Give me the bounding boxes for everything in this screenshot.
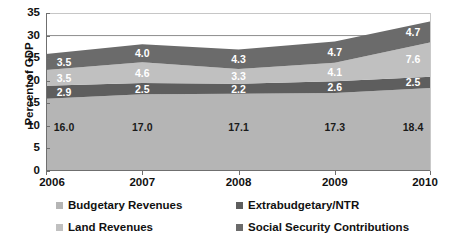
y-tick-mark-20	[46, 81, 50, 82]
legend-label-3: Social Security Contributions	[248, 221, 409, 233]
y-tick-label-20: 20	[18, 75, 40, 87]
plot-area: 16.017.017.117.318.42.92.52.22.62.53.54.…	[46, 13, 431, 171]
y-tick-label-35: 35	[18, 7, 40, 19]
y-tick-mark-25	[46, 58, 50, 59]
data-label-s1-2008: 2.2	[231, 84, 246, 95]
y-tick-mark-15	[46, 103, 50, 104]
x-tick-mark-2007	[142, 171, 143, 175]
data-label-s2-2007: 4.6	[135, 67, 150, 78]
data-label-s1-2010: 2.5	[406, 77, 421, 88]
legend-item-3[interactable]: Social Security Contributions	[236, 221, 409, 233]
x-tick-label-2008: 2008	[226, 176, 252, 188]
data-label-s3-2006: 3.5	[57, 57, 72, 68]
data-label-s2-2008: 3.3	[231, 71, 246, 82]
legend-label-0: Budgetary Revenues	[68, 199, 182, 211]
data-label-s2-2010: 7.6	[406, 54, 421, 65]
data-label-s0-2007: 17.0	[132, 122, 152, 133]
data-label-s3-2010: 4.7	[406, 26, 421, 37]
y-tick-label-5: 5	[18, 143, 40, 155]
legend-swatch-icon-2	[56, 224, 63, 231]
legend-swatch-icon-1	[236, 202, 243, 209]
legend-item-1[interactable]: Extrabudgetary/NTR	[236, 199, 359, 211]
chart-legend: Budgetary RevenuesExtrabudgetary/NTRLand…	[46, 199, 446, 245]
data-label-s0-2008: 17.1	[228, 122, 248, 133]
y-tick-mark-10	[46, 126, 50, 127]
data-label-s1-2007: 2.5	[135, 83, 150, 94]
data-label-s3-2009: 4.7	[327, 47, 342, 58]
legend-label-1: Extrabudgetary/NTR	[248, 199, 359, 211]
legend-item-0[interactable]: Budgetary Revenues	[56, 199, 182, 211]
legend-swatch-icon-0	[56, 202, 63, 209]
data-label-s1-2006: 2.9	[57, 87, 72, 98]
y-tick-mark-30	[46, 36, 50, 37]
x-tick-label-2010: 2010	[412, 176, 438, 188]
legend-item-2[interactable]: Land Revenues	[56, 221, 153, 233]
x-tick-mark-2006	[46, 171, 47, 175]
x-tick-label-2007: 2007	[129, 176, 155, 188]
x-tick-label-2009: 2009	[322, 176, 348, 188]
data-label-s0-2010: 18.4	[403, 122, 423, 133]
data-label-s2-2006: 3.5	[57, 73, 72, 84]
x-tick-mark-2009	[335, 171, 336, 175]
y-axis-tick-labels: 05101520253035	[14, 13, 40, 171]
y-tick-label-25: 25	[18, 52, 40, 64]
y-tick-mark-35	[46, 13, 50, 14]
data-label-s2-2009: 4.1	[327, 67, 342, 78]
data-label-s0-2006: 16.0	[54, 122, 74, 133]
x-tick-label-2006: 2006	[39, 176, 65, 188]
stacked-area-chart: Percent of GDP 05101520253035 16.017.017…	[0, 0, 450, 247]
x-tick-mark-2008	[239, 171, 240, 175]
x-tick-mark-2010	[430, 171, 431, 175]
legend-swatch-icon-3	[236, 224, 243, 231]
y-tick-label-0: 0	[18, 165, 40, 177]
y-tick-mark-5	[46, 148, 50, 149]
y-tick-label-15: 15	[18, 98, 40, 110]
x-axis-tick-labels: 20062007200820092010	[46, 176, 431, 192]
y-tick-label-10: 10	[18, 120, 40, 132]
y-tick-label-30: 30	[18, 30, 40, 42]
data-label-s3-2007: 4.0	[135, 48, 150, 59]
data-label-s1-2009: 2.6	[327, 82, 342, 93]
data-label-s3-2008: 4.3	[231, 54, 246, 65]
data-label-s0-2009: 17.3	[325, 122, 345, 133]
legend-label-2: Land Revenues	[68, 221, 153, 233]
